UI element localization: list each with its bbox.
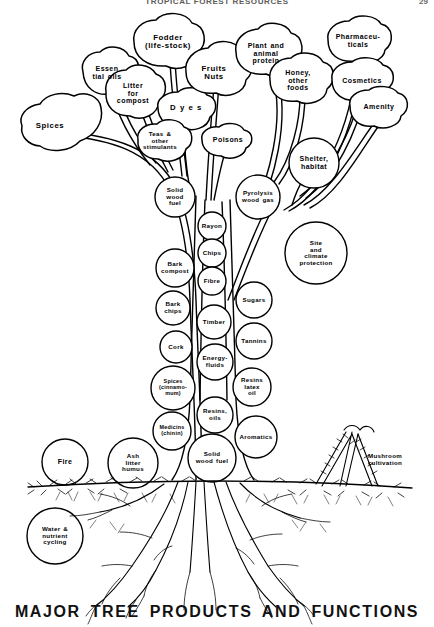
tree-diagram-artwork: .o{fill:#fff;stroke:#000;stroke-width:1.… — [0, 0, 434, 627]
node-chips — [198, 239, 226, 267]
mushroom-log-stack — [316, 426, 378, 487]
node-site-climate — [285, 222, 347, 284]
node-timber — [197, 305, 231, 339]
canopy-blobs — [21, 14, 407, 162]
node-rayon — [198, 212, 226, 240]
node-solid-wood-fuel-base — [188, 434, 236, 482]
node-resins-latex-oil — [233, 368, 271, 406]
node-shelter-habitat — [289, 138, 339, 188]
node-pyrolysis — [236, 175, 280, 219]
figure-page: TROPICAL FOREST RESOURCES 29 .o{fill:#ff… — [0, 0, 434, 627]
node-bark-chips — [156, 291, 190, 325]
node-bark-compost — [156, 249, 194, 287]
node-medicins — [153, 412, 191, 450]
node-solid-wood-fuel-top — [155, 177, 195, 217]
node-fibre — [198, 267, 226, 295]
node-resins-oils — [197, 397, 233, 433]
node-spices-cinnamomum — [151, 366, 195, 410]
node-aromatics — [235, 416, 277, 458]
node-water-nutrient-cycling — [27, 508, 83, 564]
node-fire — [42, 439, 88, 485]
node-cork — [160, 331, 192, 363]
node-sugars — [236, 282, 272, 318]
node-tannins — [236, 323, 272, 359]
node-energy-fluids — [197, 344, 233, 380]
figure-title: MAJOR TREE PRODUCTS AND FUNCTIONS — [0, 603, 434, 621]
node-circles — [27, 138, 347, 564]
